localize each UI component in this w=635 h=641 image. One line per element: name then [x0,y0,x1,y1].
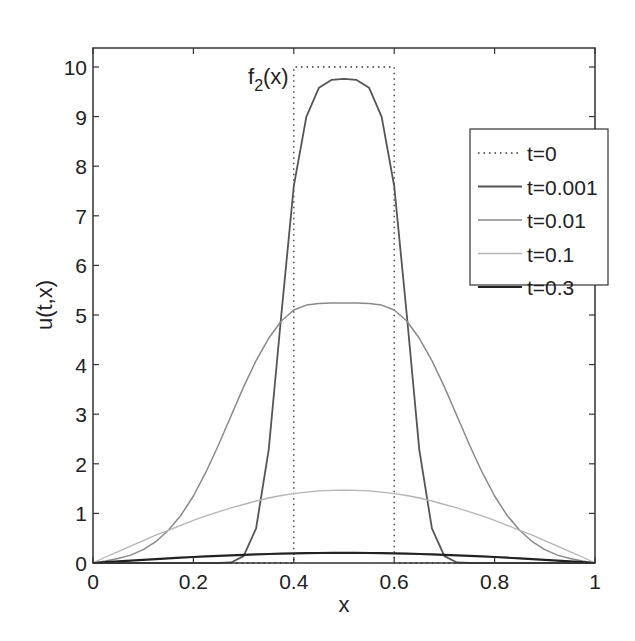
y-tick-label: 9 [75,106,87,129]
legend: t=0t=0.001t=0.01t=0.1t=0.3 [470,129,608,299]
legend-label: t=0.001 [527,176,598,199]
y-tick-label: 2 [75,453,87,476]
y-tick-label: 10 [64,56,87,79]
x-tick-label: 0.2 [179,570,208,593]
x-tick-label: 0.6 [380,570,409,593]
y-tick-label: 0 [75,552,87,575]
x-axis-label: x [339,592,350,617]
plot-background [93,48,595,563]
heat-equation-chart: 00.20.40.60.81 012345678910 x u(t,x) f2(… [0,0,635,641]
legend-label: t=0.3 [527,276,574,299]
y-tick-label: 8 [75,155,87,178]
x-tick-label: 1 [589,570,601,593]
legend-label: t=0.1 [527,243,574,266]
legend-label: t=0.01 [527,209,586,232]
legend-label: t=0 [527,142,557,165]
y-tick-label: 6 [75,254,87,277]
x-tick-label: 0 [87,570,99,593]
y-tick-label: 4 [75,354,87,377]
y-tick-label: 5 [75,304,87,327]
y-tick-label: 7 [75,205,87,228]
y-tick-label: 1 [75,502,87,525]
x-tick-label: 0.4 [279,570,309,593]
x-tick-label: 0.8 [480,570,509,593]
y-axis-label: u(t,x) [32,280,57,330]
y-tick-label: 3 [75,403,87,426]
